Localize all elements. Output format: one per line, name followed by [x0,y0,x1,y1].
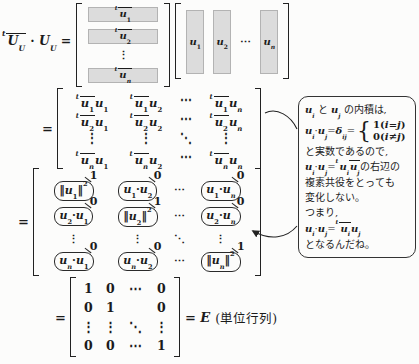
product-cell: tunun [201,149,251,165]
identity-equals-e: = E [185,310,210,325]
connector-top [265,111,297,129]
capsule-cell: ⋯ [174,210,185,223]
note-line: ui と uj の内積は, [305,102,409,118]
row-vector-cell: tun [88,68,158,83]
equation-step-2: = tu1u1tu1u2⋯tu1untu2u1tu2u2⋯tu2un⋮⋮⋱⋮tu… [42,88,261,169]
matrix-conjugate-transpose-rows: tu1tu2⋮tun [76,3,170,87]
value-annotation: 0 [90,240,98,253]
dots: ⋱ [174,233,185,246]
product-cell: ⋯ [175,111,197,127]
note-line: ui·uj=tuiuj [305,220,409,236]
value-annotation: 1 [90,169,98,182]
value-annotation: 1 [154,195,162,208]
capsule-grid: ‖u1‖21u1·u20⋯u1·un0u2·u10‖u2‖21⋯u2·un0⋮⋮… [41,168,253,276]
value-annotation: 0 [237,195,245,208]
identity-cell: ⋮ [104,319,117,334]
identity-note: (単位行列) [215,308,277,327]
product-cell: ⋱ [175,130,197,146]
product-cell: tu1u1 [67,92,117,108]
delta-cases-line: ui·uj=δij={1(i=j)0(i≠j) [305,119,409,143]
product-cell: tunu1 [67,149,117,165]
dots: ⋯ [174,184,185,197]
row-vector-stack: tu1tu2⋮tun [84,3,162,87]
matrix-inner-products: tu1u1tu1u2⋯tu1untu2u1tu2u2⋯tu2un⋮⋮⋱⋮tunu… [57,88,261,169]
capsule-cell: un·u20 [118,252,157,271]
bracket-left [70,277,76,357]
cases-brace: { [357,120,371,142]
dots: ⋯ [174,210,185,223]
bracket-right [164,3,170,87]
capsule-cell: ⋮ [68,233,79,246]
product-capsule: u2·un0 [201,207,240,226]
column-vector-cell: u2 [213,10,231,74]
row-vector-cell: tu1 [88,7,158,22]
bracket-right [255,168,261,276]
identity-cell: 1 [157,338,166,353]
identity-cell: ⋯ [129,281,142,296]
value-annotation: 0 [237,169,245,182]
product-cell: tu1u2 [121,92,171,108]
identity-cell: 0 [84,300,93,315]
bracket-right [283,3,289,79]
cases-value: 1(i=j) [373,119,405,131]
equation-step-3: = ‖u1‖21u1·u20⋯u1·un0u2·u10‖u2‖21⋯u2·un0… [18,168,261,276]
product-cell: ⋯ [175,149,197,165]
vdots: ⋮ [88,50,158,61]
product-grid: tu1u1tu1u2⋯tu1untu2u1tu2u2⋯tu2un⋮⋮⋱⋮tunu… [65,88,253,169]
row-vector-cell: tu2 [88,29,158,44]
value-annotation: 0 [90,195,98,208]
column-vector-cell: u1 [186,10,204,74]
matrix-unit-columns: u1u2⋯un [175,3,289,79]
inner-product-note-callout: ui と uj の内積は,ui·uj=δij={1(i=j)0(i≠j)と実数で… [298,96,416,258]
bracket-left [33,168,39,276]
capsule-cell: u2·u10 [54,207,93,226]
identity-cell: 0 [106,281,115,296]
equals-sign: = [42,121,53,136]
equals-sign: = [18,214,29,229]
bracket-left [57,88,63,169]
product-capsule: ‖un‖21 [201,252,240,272]
capsule-cell: u1·un0 [201,181,240,200]
dots: ⋮ [132,233,143,246]
product-capsule: u2·u10 [54,207,93,226]
bracket-left [175,3,181,79]
product-cell: ⋯ [175,92,197,108]
identity-cell: 0 [84,338,93,353]
product-capsule: u1·u20 [118,181,157,200]
bracket-left [76,3,82,87]
lhs-expression: tUU · UU = [2,33,71,51]
bracket-right [174,277,180,357]
capsule-cell: ⋯ [174,184,185,197]
identity-cell: ⋯ [129,338,142,353]
identity-cell: ⋮ [155,319,168,334]
equation-step-1: tUU · UU = tu1tu2⋮tun u1u2⋯un [2,3,289,87]
identity-cell: 1 [84,281,93,296]
product-cell: tunu2 [121,149,171,165]
product-cell: tu1un [201,92,251,108]
note-line: と実数であるので, [305,144,409,159]
identity-cell: 0 [157,281,166,296]
dots: ⋮ [68,233,79,246]
textbook-page: tUU · UU = tu1tu2⋮tun u1u2⋯un = tu1u1tu1… [0,0,419,364]
identity-cell: 0 [157,300,166,315]
equals-sign: = [55,310,66,325]
column-vector-row: u1u2⋯un [183,5,281,79]
identity-cell: 0 [106,338,115,353]
equation-step-4: = 10⋯0010⋮⋮⋱⋮00⋯1 = E (単位行列) [55,277,277,357]
note-line: 変化しない。 [305,190,409,205]
note-line: 複素共役をとっても [305,175,409,190]
capsule-cell: ‖u1‖21 [54,181,93,201]
identity-grid: 10⋯0010⋮⋮⋱⋮00⋯1 [78,277,172,357]
cases-lhs: ui·uj=δij= [305,123,355,139]
value-annotation: 1 [237,240,245,253]
capsule-cell: ‖un‖21 [201,252,240,272]
product-capsule: un·u10 [54,252,93,271]
note-line: ui·uj=tuiujの右辺の [305,159,409,175]
product-capsule: ‖u1‖21 [54,181,93,201]
identity-cell: ⋱ [129,319,142,334]
column-vector-cell: un [260,10,278,74]
capsule-cell: ⋯ [174,255,185,268]
note-line: つまり, [305,205,409,220]
matrix-identity: 10⋯0010⋮⋮⋱⋮00⋯1 [70,277,180,357]
dots: ⋯ [174,255,185,268]
